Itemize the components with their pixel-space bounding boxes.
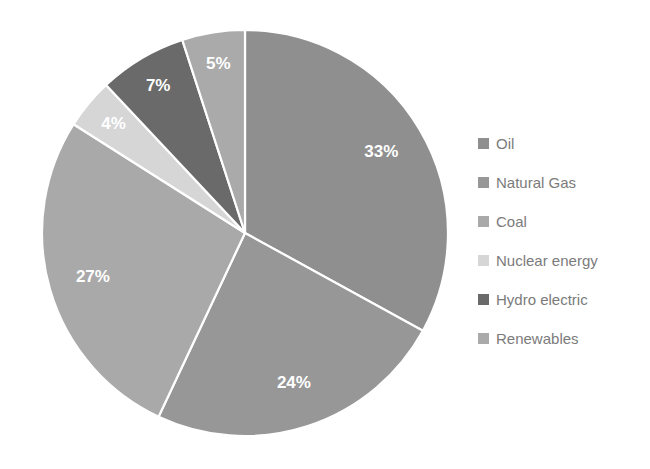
legend-item-label: Oil bbox=[496, 136, 514, 151]
legend-swatch-icon bbox=[478, 138, 489, 149]
pie-slices-group bbox=[42, 30, 448, 436]
pie-data-label-nuclear-energy: 4% bbox=[101, 114, 126, 133]
legend-item-oil[interactable]: Oil bbox=[478, 124, 646, 163]
pie-data-label-natural-gas: 24% bbox=[277, 373, 311, 392]
legend-item-label: Hydro electric bbox=[496, 292, 588, 307]
legend-swatch-icon bbox=[478, 216, 489, 227]
pie-chart: 33%24%27%4%7%5% OilNatural GasCoalNuclea… bbox=[0, 0, 650, 469]
legend-swatch-icon bbox=[478, 333, 489, 344]
pie-data-label-oil: 33% bbox=[364, 142, 398, 161]
legend-swatch-icon bbox=[478, 294, 489, 305]
legend-item-coal[interactable]: Coal bbox=[478, 202, 646, 241]
legend-swatch-icon bbox=[478, 177, 489, 188]
pie-svg: 33%24%27%4%7%5% bbox=[0, 0, 470, 469]
legend-item-label: Natural Gas bbox=[496, 175, 576, 190]
legend-item-label: Nuclear energy bbox=[496, 253, 598, 268]
pie-data-label-hydro-electric: 7% bbox=[146, 76, 171, 95]
pie-data-label-coal: 27% bbox=[76, 267, 110, 286]
pie-data-label-renewables: 5% bbox=[206, 54, 231, 73]
legend-item-label: Coal bbox=[496, 214, 527, 229]
legend-swatch-icon bbox=[478, 255, 489, 266]
pie-plot-area: 33%24%27%4%7%5% bbox=[0, 0, 470, 469]
legend-item-hydro-electric[interactable]: Hydro electric bbox=[478, 280, 646, 319]
chart-legend: OilNatural GasCoalNuclear energyHydro el… bbox=[478, 124, 646, 358]
legend-item-renewables[interactable]: Renewables bbox=[478, 319, 646, 358]
legend-item-nuclear-energy[interactable]: Nuclear energy bbox=[478, 241, 646, 280]
legend-item-label: Renewables bbox=[496, 331, 579, 346]
legend-item-natural-gas[interactable]: Natural Gas bbox=[478, 163, 646, 202]
